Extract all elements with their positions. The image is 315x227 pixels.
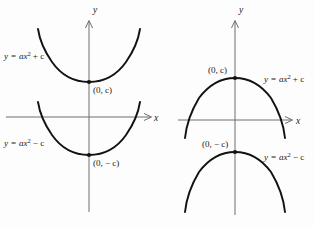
left-panel-vertex-lower-dot bbox=[87, 153, 91, 157]
right-panel: y x (0, c) y=ax2+ c (0, − c) y=a bbox=[178, 5, 304, 215]
right-panel-x-axis-label: x bbox=[295, 116, 301, 126]
lbl-tail: + c bbox=[293, 74, 304, 84]
left-panel-vertex-lower-label: (0, − c) bbox=[93, 158, 119, 168]
left-panel-y-axis-label: y bbox=[92, 5, 98, 15]
lbl-ax: ax bbox=[19, 138, 28, 148]
lbl-y: y bbox=[263, 74, 268, 84]
right-panel-equation-lower: y=ax2− c bbox=[263, 151, 304, 163]
lbl-ax: ax bbox=[279, 152, 288, 162]
lbl-ax: ax bbox=[19, 51, 28, 61]
svg-text:y=ax2− c: y=ax2− c bbox=[3, 137, 44, 149]
svg-text:y=ax2− c: y=ax2− c bbox=[263, 151, 304, 163]
left-panel: y x (0, c) y=ax2+ c (0, − c) y=a bbox=[3, 5, 159, 212]
lbl-exp: 2 bbox=[288, 151, 291, 158]
lbl-tail: − c bbox=[293, 152, 304, 162]
svg-text:y=ax2+ c: y=ax2+ c bbox=[3, 50, 44, 62]
right-panel-vertex-upper-dot bbox=[233, 76, 237, 80]
lbl-exp: 2 bbox=[28, 137, 31, 144]
svg-text:y=ax2+ c: y=ax2+ c bbox=[263, 73, 304, 85]
lbl-eq: = bbox=[271, 74, 276, 84]
right-panel-y-axis-label: y bbox=[238, 5, 244, 15]
right-panel-vertex-upper-label: (0, c) bbox=[208, 65, 227, 75]
figure-root: y x (0, c) y=ax2+ c (0, − c) y=a bbox=[0, 0, 315, 227]
lbl-y: y bbox=[3, 51, 8, 61]
left-panel-vertex-upper-label: (0, c) bbox=[93, 85, 112, 95]
left-panel-vertex-upper-dot bbox=[87, 80, 91, 84]
lbl-eq: = bbox=[271, 152, 276, 162]
lbl-y: y bbox=[263, 152, 268, 162]
lbl-eq: = bbox=[11, 138, 16, 148]
right-panel-equation-upper: y=ax2+ c bbox=[263, 73, 304, 85]
lbl-ax: ax bbox=[279, 74, 288, 84]
right-panel-vertex-lower-label: (0, − c) bbox=[202, 139, 228, 149]
left-panel-equation-lower: y=ax2− c bbox=[3, 137, 44, 149]
parabola-figure-svg: y x (0, c) y=ax2+ c (0, − c) y=a bbox=[0, 0, 315, 227]
lbl-y: y bbox=[3, 138, 8, 148]
left-panel-x-axis-label: x bbox=[153, 113, 159, 123]
lbl-exp: 2 bbox=[288, 73, 291, 80]
lbl-eq: = bbox=[11, 51, 16, 61]
lbl-tail: + c bbox=[33, 51, 44, 61]
lbl-tail: − c bbox=[33, 138, 44, 148]
right-panel-vertex-lower-dot bbox=[233, 150, 237, 154]
lbl-exp: 2 bbox=[28, 50, 31, 57]
left-panel-equation-upper: y=ax2+ c bbox=[3, 50, 44, 62]
